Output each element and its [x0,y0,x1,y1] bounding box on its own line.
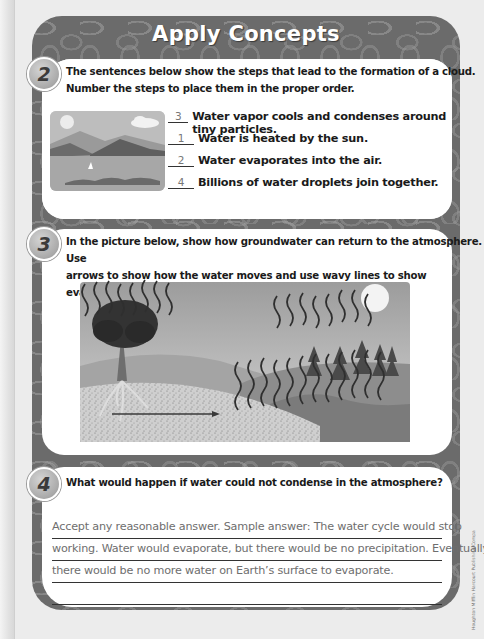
publisher-credit: Houghton Mifflin Harcourt Publishing Com… [471,530,481,630]
answer-line[interactable]: working. Water would evaporate, but ther… [52,539,442,561]
answer-line[interactable]: Accept any reasonable answer. Sample ans… [52,517,442,539]
answer-line[interactable]: there would be no more water on Earth’s … [52,561,442,583]
step-list: 3 Water vapor cools and condenses around… [168,110,458,198]
list-item: 4 Billions of water droplets join togeth… [168,176,458,198]
prompt-line: Number the steps to place them in the pr… [66,80,475,97]
question-2-prompt: The sentences below show the steps that … [66,63,475,97]
order-answer-field[interactable]: 2 [168,154,194,167]
prompt-line: The sentences below show the steps that … [66,63,475,80]
lake-scene-icon [50,111,165,191]
step-text: Water evaporates into the air. [198,154,382,167]
answer-lines[interactable]: Accept any reasonable answer. Sample ans… [52,517,442,605]
lake-illustration [50,111,165,191]
page-binding-edge [0,0,15,639]
list-item: 3 Water vapor cools and condenses around… [168,110,458,132]
question-number-badge: 3 [27,227,61,261]
order-answer-field[interactable]: 4 [168,176,194,189]
page-title: Apply Concepts [32,22,460,46]
list-item: 2 Water evaporates into the air. [168,154,458,176]
prompt-line: In the picture below, show how groundwat… [66,233,484,267]
question-4-prompt: What would happen if water could not con… [66,474,443,491]
order-answer-field[interactable]: 3 [168,110,188,123]
question-number-badge: 4 [27,467,61,501]
step-text: Billions of water droplets join together… [198,176,438,189]
step-text: Water is heated by the sun. [198,132,368,145]
groundwater-diagram[interactable] [70,276,415,444]
question-number-badge: 2 [27,57,61,91]
water-cycle-landscape-icon [70,276,415,444]
answer-line[interactable] [52,583,442,605]
order-answer-field[interactable]: 1 [168,132,194,145]
